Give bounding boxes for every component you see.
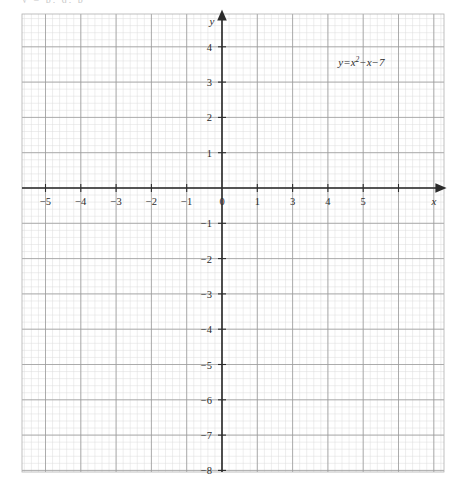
- x-tick-label-0: 0: [219, 196, 224, 207]
- y-tick-label--8: −8: [201, 465, 212, 476]
- y-tick-label-3: 3: [207, 77, 212, 88]
- y-tick-label-4: 4: [207, 42, 213, 53]
- x-tick-label-4: 5: [361, 196, 366, 207]
- y-tick-label-1: 1: [207, 148, 212, 159]
- equation-tail: −x−7: [359, 56, 385, 68]
- y-tick-label--6: −6: [201, 395, 212, 406]
- y-tick-label--5: −5: [201, 360, 212, 371]
- x-tick-label--4: −4: [75, 196, 87, 207]
- graph-figure: y = p, q, p −5−4−3−2−101345 4321−1−2−3−4…: [0, 0, 467, 484]
- y-tick-label--4: −4: [201, 324, 213, 335]
- x-tick-label-2: 3: [290, 196, 295, 207]
- equation-equals: =: [343, 56, 350, 68]
- x-axis-label: x: [431, 195, 437, 207]
- x-tick-label-1: 1: [255, 196, 260, 207]
- x-tick-label--5: −5: [40, 196, 51, 207]
- curve-equation-annotation: y=x2−x−7: [337, 55, 385, 69]
- plot-background: [22, 14, 444, 472]
- x-tick-label--2: −2: [146, 196, 157, 207]
- y-tick-label-2: 2: [207, 112, 212, 123]
- y-tick-label--7: −7: [201, 430, 212, 441]
- coordinate-plot: −5−4−3−2−101345 4321−1−2−3−4−5−6−7−8 x y…: [0, 0, 467, 484]
- x-tick-label--3: −3: [111, 196, 122, 207]
- x-tick-label-3: 4: [325, 196, 331, 207]
- y-tick-label--3: −3: [201, 289, 212, 300]
- x-tick-label--1: −1: [181, 196, 192, 207]
- y-tick-label--2: −2: [201, 254, 212, 265]
- y-tick-label--1: −1: [201, 218, 212, 229]
- y-axis-label: y: [209, 15, 215, 27]
